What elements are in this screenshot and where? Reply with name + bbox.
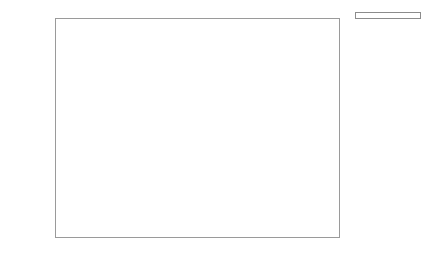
statistics-legend bbox=[355, 12, 421, 19]
plot-area bbox=[55, 18, 340, 238]
probability-plot-figure bbox=[0, 0, 427, 277]
plot-canvas bbox=[56, 19, 339, 237]
y-axis-tick-labels bbox=[0, 0, 52, 277]
